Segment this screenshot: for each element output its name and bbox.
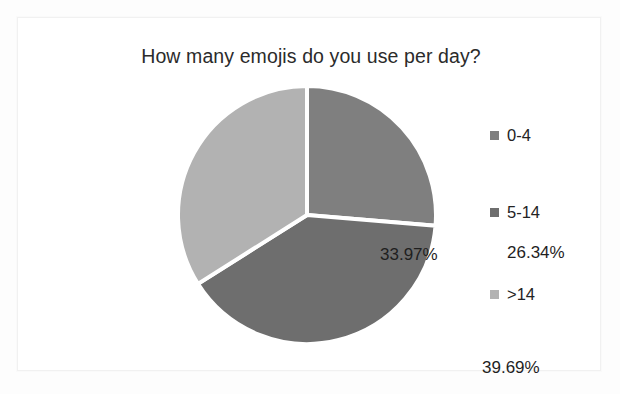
legend-swatch-icon: [490, 208, 499, 217]
pie-svg: [177, 85, 437, 345]
legend-swatch-icon: [490, 290, 499, 299]
pie-graphic: 26.34% 39.69% 33.97%: [177, 85, 437, 345]
legend-item-5-14[interactable]: 5-14: [490, 203, 540, 221]
slice-value-label-33: 33.97%: [380, 245, 438, 265]
legend-label: >14: [507, 286, 535, 303]
chart-title: How many emojis do you use per day?: [60, 45, 562, 68]
legend-item--14[interactable]: >14: [490, 285, 535, 303]
legend-swatch-icon: [490, 131, 499, 140]
slice-value-label-39: 39.69%: [482, 358, 540, 378]
scanned-page-canvas: How many emojis do you use per day? 26.3…: [0, 0, 620, 394]
legend-label: 0-4: [507, 127, 531, 144]
pie-slice-group: [178, 86, 436, 344]
pie-chart-figure: How many emojis do you use per day? 26.3…: [0, 0, 620, 394]
pie-slice-0-4: [307, 86, 436, 226]
legend-label: 5-14: [507, 204, 540, 221]
slice-value-label-0-4: 26.34%: [507, 243, 565, 263]
legend-item-0-4[interactable]: 0-4: [490, 126, 531, 144]
